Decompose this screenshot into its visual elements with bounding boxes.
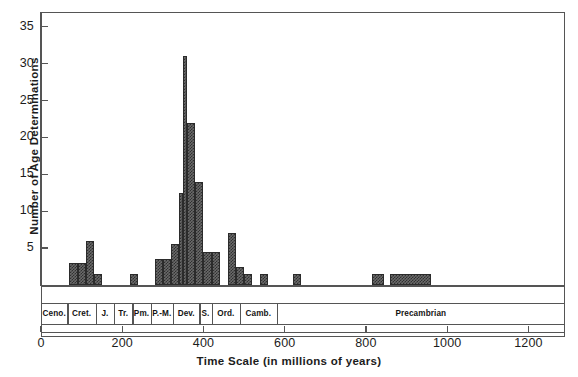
- histogram-bar: [244, 274, 252, 285]
- y-axis-tick-label: 30: [4, 56, 34, 70]
- histogram-bar: [293, 274, 301, 285]
- y-axis-tick-label: 15: [4, 166, 34, 180]
- x-axis-tick-label: 800: [336, 336, 396, 350]
- plot-area: [41, 12, 565, 286]
- y-axis-tick-label: 25: [4, 93, 34, 107]
- x-axis-tick: [122, 326, 123, 332]
- period-label: Precambrian: [381, 309, 461, 318]
- histogram-bar: [372, 274, 384, 285]
- histogram-bar: [86, 241, 94, 285]
- x-axis-tick-label: 600: [255, 336, 315, 350]
- x-axis-tick: [40, 326, 41, 332]
- histogram-bar: [187, 123, 195, 285]
- histogram-bar: [78, 263, 86, 285]
- histogram-bar: [69, 263, 77, 285]
- histogram-bar: [195, 182, 203, 285]
- histogram-bars: [41, 12, 565, 285]
- geologic-time-scale: Ceno.Cret.J.Tr.Pm.P.-M.Dev.S.Ord.Camb.Pr…: [41, 303, 565, 325]
- x-axis-tick: [447, 326, 448, 332]
- x-axis-tick: [365, 326, 366, 332]
- histogram-bar: [155, 259, 163, 285]
- histogram-figure: Number of Age Determinations 51015202530…: [0, 0, 578, 377]
- x-axis-tick: [203, 326, 204, 332]
- histogram-bar: [94, 274, 102, 285]
- period-divider: [277, 304, 278, 324]
- histogram-bar: [390, 274, 431, 285]
- x-axis-title: Time Scale (in millions of years): [0, 355, 578, 367]
- x-axis-tick-label: 200: [92, 336, 152, 350]
- y-axis-tick-label: 35: [4, 19, 34, 33]
- histogram-baseline: [41, 285, 565, 287]
- histogram-bar: [203, 252, 211, 285]
- period-label: Camb.: [218, 309, 298, 318]
- scale-strip-top-rule: [41, 303, 565, 304]
- x-axis-tick: [284, 326, 285, 332]
- histogram-bar: [236, 267, 244, 285]
- x-axis-line: [41, 332, 565, 334]
- x-axis-tick-label: 400: [173, 336, 233, 350]
- histogram-bar: [163, 259, 171, 285]
- histogram-bar: [130, 274, 138, 285]
- x-axis-tick: [528, 326, 529, 332]
- y-axis-tick-label: 20: [4, 129, 34, 143]
- x-axis-tick-label: 0: [11, 336, 71, 350]
- x-axis-tick-label: 1000: [417, 336, 477, 350]
- y-axis-tick-label: 5: [4, 240, 34, 254]
- y-axis-tick-label: 10: [4, 203, 34, 217]
- histogram-bar: [171, 244, 179, 285]
- x-axis-tick-label: 1200: [498, 336, 558, 350]
- histogram-bar: [260, 274, 268, 285]
- scale-strip-bottom-rule: [41, 324, 565, 325]
- histogram-bar: [212, 252, 220, 285]
- histogram-bar: [228, 233, 236, 285]
